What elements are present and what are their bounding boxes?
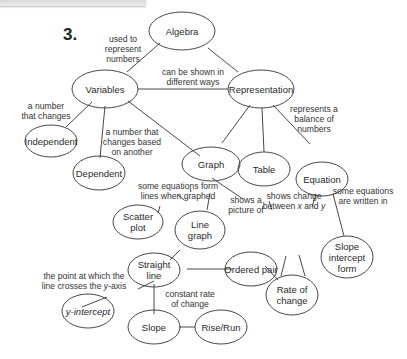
- node-scatter-plot: Scatterplot: [123, 211, 153, 233]
- edge-label-represents-balance: represents abalance ofnumbers: [290, 104, 338, 134]
- node-line-graph: Linegraph: [188, 219, 212, 241]
- node-algebra: Algebra: [166, 26, 199, 37]
- node-equation: Equation: [303, 174, 341, 185]
- edge-label-used-to-represent: used torepresentnumbers: [105, 34, 141, 64]
- node-dependent: Dependent: [76, 168, 122, 179]
- edge-label-shows-change: shows changebetween x and y: [263, 191, 326, 211]
- node-ordered-pair: Ordered pair: [224, 264, 277, 275]
- edge-label-changes-based: a number thatchanges basedon another: [103, 127, 161, 157]
- node-slope-intercept-form: Slopeinterceptform: [329, 241, 365, 274]
- node-table: Table: [253, 164, 276, 175]
- node-rise-run: Rise/Run: [201, 322, 240, 333]
- edge-label-number-that-changes: a numberthat changes: [21, 101, 70, 121]
- node-independent: Independent: [25, 136, 78, 147]
- edge-label-equations-form-lines: some equations formlines when graphed: [138, 181, 218, 201]
- edge-label-constant-rate: constant rateof change: [165, 289, 215, 309]
- edge-label-shows-picture: shows apicture of: [228, 195, 263, 215]
- node-rate-of-change: Rate ofchange: [276, 284, 307, 306]
- node-straight-line: Straightline: [138, 259, 171, 281]
- node-y-intercept: y-intercept: [66, 306, 110, 317]
- node-representation: Representation: [229, 84, 293, 95]
- node-slope: Slope: [142, 322, 166, 333]
- edge-label-written-in: some equationsare written in: [333, 186, 394, 206]
- node-variables: Variables: [86, 84, 125, 95]
- edge-label-point-crosses: the point at which theline crosses the y…: [42, 271, 127, 291]
- edge-label-can-be-shown: can be shown indifferent ways: [162, 67, 224, 87]
- node-graph: Graph: [198, 159, 224, 170]
